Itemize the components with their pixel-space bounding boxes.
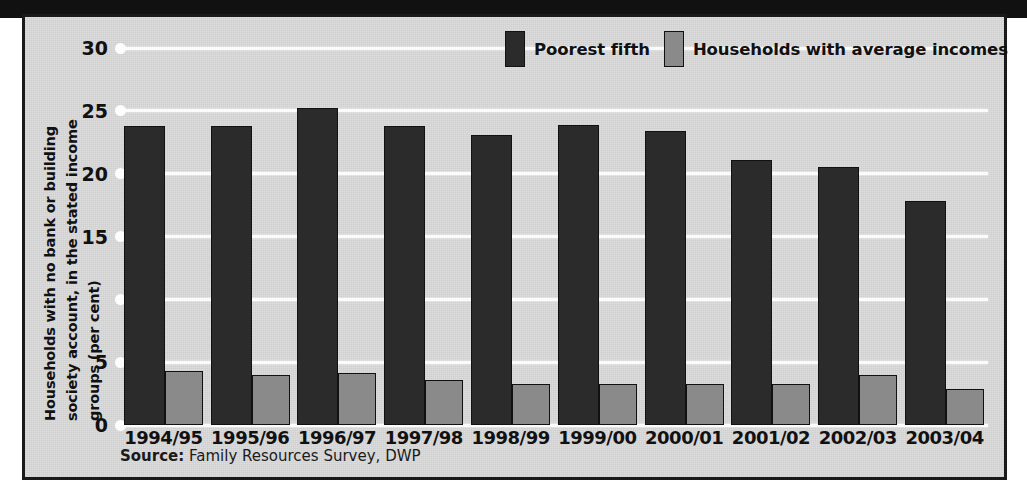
bar-poorest-fifth[interactable] xyxy=(905,201,946,425)
bar-poorest-fifth[interactable] xyxy=(818,167,859,425)
y-axis-title-line-3: groups (per cent) xyxy=(86,280,102,421)
bar-poorest-fifth[interactable] xyxy=(211,126,252,425)
bar-average-incomes[interactable] xyxy=(425,380,463,425)
legend-entry-average-incomes[interactable]: Households with average incomes xyxy=(664,31,1008,67)
bar-average-incomes[interactable] xyxy=(252,375,290,425)
legend-label-average-incomes: Households with average incomes xyxy=(693,40,1008,59)
bar-poorest-fifth[interactable] xyxy=(384,126,425,425)
chart-figure: Households with no bank or building soci… xyxy=(0,0,1027,493)
bar-average-incomes[interactable] xyxy=(338,373,376,425)
bar-groups xyxy=(120,48,988,425)
bar-group xyxy=(467,48,554,425)
bar-poorest-fifth[interactable] xyxy=(297,108,338,425)
bar-group xyxy=(380,48,467,425)
bar-average-incomes[interactable] xyxy=(859,375,897,425)
legend-swatch-icon-poorest-fifth xyxy=(505,31,525,67)
bar-group xyxy=(641,48,728,425)
bar-average-incomes[interactable] xyxy=(599,384,637,425)
bar-average-incomes[interactable] xyxy=(512,384,550,425)
source-note: Source: Family Resources Survey, DWP xyxy=(120,447,421,465)
source-label: Source: xyxy=(120,447,184,465)
x-axis-category-label: 1998/99 xyxy=(467,427,554,457)
source-value: Family Resources Survey, DWP xyxy=(184,447,420,465)
legend-label-poorest-fifth: Poorest fifth xyxy=(534,40,650,59)
bar-group xyxy=(294,48,381,425)
bar-poorest-fifth[interactable] xyxy=(471,135,512,425)
bar-average-incomes[interactable] xyxy=(946,389,984,425)
x-axis-category-label: 1999/00 xyxy=(554,427,641,457)
bar-group xyxy=(901,48,988,425)
bar-average-incomes[interactable] xyxy=(686,384,724,425)
bottom-white-band xyxy=(0,485,1027,493)
bar-average-incomes[interactable] xyxy=(772,384,810,425)
bar-poorest-fifth[interactable] xyxy=(645,131,686,425)
x-axis-category-label: 2000/01 xyxy=(641,427,728,457)
y-axis-title-line-2: society account, in the stated income xyxy=(64,119,80,421)
bar-average-incomes[interactable] xyxy=(165,371,203,425)
chart-plate: Households with no bank or building soci… xyxy=(22,14,1007,480)
plot-area: 3025201550 xyxy=(120,48,988,425)
y-axis-title: Households with no bank or building soci… xyxy=(39,45,115,421)
legend-swatch-icon-average-incomes xyxy=(664,31,684,67)
chart-legend: Poorest fifth Households with average in… xyxy=(505,31,1008,67)
bar-poorest-fifth[interactable] xyxy=(731,160,772,425)
x-axis-category-label: 2001/02 xyxy=(728,427,815,457)
bar-group xyxy=(207,48,294,425)
bar-group xyxy=(554,48,641,425)
y-axis-title-line-1: Households with no bank or building xyxy=(42,126,58,421)
bar-group xyxy=(814,48,901,425)
bar-group xyxy=(120,48,207,425)
x-axis-category-label: 2002/03 xyxy=(814,427,901,457)
bar-poorest-fifth[interactable] xyxy=(124,126,165,425)
legend-entry-poorest-fifth[interactable]: Poorest fifth xyxy=(505,31,650,67)
bar-poorest-fifth[interactable] xyxy=(558,125,599,425)
bar-group xyxy=(728,48,815,425)
x-axis-category-label: 2003/04 xyxy=(901,427,988,457)
